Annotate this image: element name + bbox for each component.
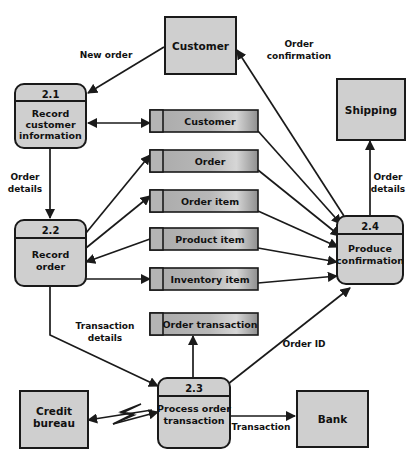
data-store-product-item-label: Product item [175,234,244,245]
flow-store-product-item-p24 [258,248,337,262]
data-store-order[interactable]: Order [150,150,258,172]
process-2-4[interactable]: 2.4 Produce confirmation [336,216,404,284]
external-entity-shipping-label: Shipping [345,104,397,116]
external-entity-bank[interactable]: Bank [297,391,368,447]
external-entity-bank-label: Bank [318,413,349,425]
process-2-1-label-line2: customer [25,119,75,130]
process-2-3-number: 2.3 [185,383,203,394]
process-2-2[interactable]: 2.2 Record order [15,220,86,286]
flow-label-order-details-right-line1: Order [373,172,403,182]
flow-label-transaction: Transaction [232,422,291,432]
flow-label-order-id: Order ID [282,339,325,349]
flow-label-order-confirmation-line1: Order [284,39,314,49]
external-entity-credit-bureau-label-line1: Credit [36,405,72,417]
data-store-product-item[interactable]: Product item [150,228,258,250]
external-entity-credit-bureau[interactable]: Credit bureau [20,391,88,448]
process-2-4-label-line2: confirmation [336,255,404,266]
data-store-order-item-label: Order item [181,196,239,207]
process-2-1-label-line3: information [19,130,82,141]
process-2-3[interactable]: 2.3 Process order transaction [157,378,231,448]
data-store-inventory-item[interactable]: Inventory item [150,268,258,290]
flow-order-id [228,288,350,384]
flow-label-order-details-left-line2: details [8,184,42,194]
external-entity-shipping[interactable]: Shipping [337,79,405,140]
flow-store-customer-p24 [258,131,341,224]
flow-store-product-item-p22 [86,239,150,262]
flow-store-order-p24 [258,170,340,236]
data-store-customer-label: Customer [184,116,236,127]
external-entity-customer-label: Customer [172,40,230,52]
flow-credit-bureau-out [88,410,152,420]
external-entity-customer[interactable]: Customer [165,17,236,74]
data-store-inventory-item-label: Inventory item [170,274,249,285]
data-store-customer[interactable]: Customer [150,110,258,132]
process-2-3-label-line1: Process order [157,403,231,414]
flow-store-order-item-p24 [258,211,338,247]
process-2-1[interactable]: 2.1 Record customer information [15,84,86,148]
flow-store-inventory-item-p24 [258,276,337,283]
process-2-4-label-line1: Produce [348,243,392,254]
process-2-4-number: 2.4 [361,221,379,232]
flow-label-transaction-details-line2: details [88,333,122,343]
flow-label-new-order: New order [80,50,133,60]
process-2-3-label-line2: transaction [163,415,224,426]
flow-label-order-details-left-line1: Order [10,172,40,182]
data-store-order-item[interactable]: Order item [150,190,258,212]
flow-label-order-confirmation-line2: confirmation [267,51,331,61]
diagram-canvas: Customer Shipping Credit bureau Bank 2.1… [0,0,415,456]
process-2-1-number: 2.1 [42,89,60,100]
data-flow-diagram: Customer Shipping Credit bureau Bank 2.1… [0,0,415,456]
data-store-order-transaction-label: Order transaction [162,319,257,330]
flow-label-order-details-right-line2: details [371,184,405,194]
flow-credit-bureau-in [113,412,158,424]
process-2-2-label-line2: order [36,261,65,272]
data-store-order-transaction[interactable]: Order transaction [150,313,258,335]
process-2-2-label-line1: Record [32,249,69,260]
external-entity-credit-bureau-label-line2: bureau [33,417,75,429]
process-2-1-label-line1: Record [32,108,69,119]
process-2-2-number: 2.2 [42,225,60,236]
data-store-order-label: Order [195,156,226,167]
flow-label-transaction-details-line1: Transaction [76,321,135,331]
